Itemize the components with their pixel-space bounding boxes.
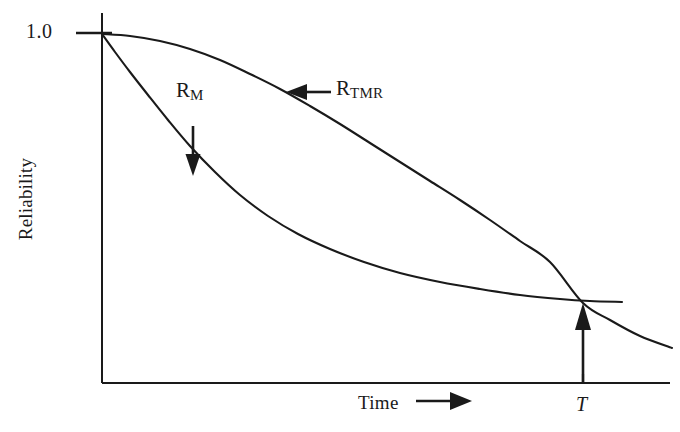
x-axis-label: Time [358,392,399,414]
y-tick-label-1-0: 1.0 [26,20,53,43]
r-m-annotation-arrow [186,126,201,176]
curve-label-r-m: RM [176,80,204,101]
curve-label-r-tmr-main: R [336,76,350,100]
curve-r-m [102,34,622,302]
crossover-arrow [575,303,591,382]
reliability-chart: Reliability 1.0 Time T RM RTMR [0,0,680,432]
y-axis-label: Reliability [15,129,37,269]
x-tick-label-T: T [576,393,587,416]
time-axis-arrow [416,392,472,410]
curve-label-r-tmr: RTMR [336,78,383,99]
curve-label-r-tmr-sub: TMR [350,85,383,101]
r-tmr-annotation-arrow [286,84,331,100]
curve-label-r-m-main: R [176,78,190,102]
chart-plot-area [0,0,680,432]
curve-label-r-m-sub: M [190,87,204,103]
